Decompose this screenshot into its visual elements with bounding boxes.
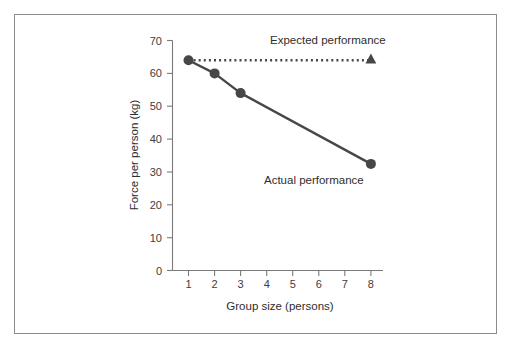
actual-point-8 (366, 159, 376, 169)
actual-point-3 (236, 88, 246, 98)
y-tick-label-70: 70 (150, 35, 162, 47)
y-axis-ticks (167, 41, 173, 271)
x-tick-label-5: 5 (290, 278, 296, 290)
x-tick-label-2: 2 (212, 278, 218, 290)
x-axis-title: Group size (persons) (226, 300, 334, 312)
y-axis-tick-labels: 70 60 50 40 30 20 10 0 (150, 35, 162, 277)
x-tick-label-6: 6 (316, 278, 322, 290)
x-tick-label-3: 3 (238, 278, 244, 290)
y-tick-label-0: 0 (156, 265, 162, 277)
y-tick-label-60: 60 (150, 67, 162, 79)
y-axis-title: Force per person (kg) (128, 100, 140, 211)
x-axis-tick-labels: 1 2 3 4 5 6 7 8 (185, 278, 374, 290)
actual-point-2 (210, 68, 220, 78)
expected-triangle-marker (366, 54, 377, 64)
x-tick-label-1: 1 (185, 278, 191, 290)
actual-performance-series (184, 55, 376, 169)
actual-performance-annotation: Actual performance (264, 174, 364, 186)
actual-point-1 (184, 55, 194, 65)
expected-performance-annotation: Expected performance (270, 34, 386, 46)
y-tick-label-30: 30 (150, 166, 162, 178)
x-axis-ticks (189, 271, 371, 277)
x-tick-label-8: 8 (368, 278, 374, 290)
y-tick-label-20: 20 (150, 199, 162, 211)
line-chart: 70 60 50 40 30 20 10 0 1 2 3 4 5 6 (0, 0, 515, 349)
axes-group (173, 41, 384, 271)
figure-root: 70 60 50 40 30 20 10 0 1 2 3 4 5 6 (0, 0, 515, 349)
x-tick-label-7: 7 (342, 278, 348, 290)
expected-performance-series (189, 54, 377, 64)
x-tick-label-4: 4 (264, 278, 270, 290)
y-tick-label-50: 50 (150, 100, 162, 112)
y-tick-label-10: 10 (150, 232, 162, 244)
y-tick-label-40: 40 (150, 133, 162, 145)
